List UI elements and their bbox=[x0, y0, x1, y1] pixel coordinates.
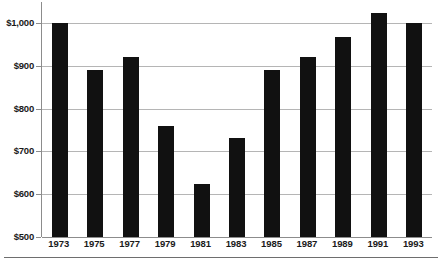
y-tick-label: $500 bbox=[0, 232, 34, 242]
y-tickmark bbox=[36, 151, 41, 152]
y-tickmark bbox=[36, 194, 41, 195]
x-tick-label: 1979 bbox=[155, 239, 176, 249]
y-tickmark bbox=[36, 66, 41, 67]
x-tick-label: 1981 bbox=[190, 239, 211, 249]
x-tick-label: 1973 bbox=[48, 239, 69, 249]
y-axis-tickmarks bbox=[41, 2, 431, 237]
x-tick-label: 1989 bbox=[332, 239, 353, 249]
bar-chart: $500$600$700$800$900$1,000 1973197519771… bbox=[0, 0, 442, 265]
y-axis: $500$600$700$800$900$1,000 bbox=[0, 0, 34, 265]
x-axis: 1973197519771979198119831985198719891991… bbox=[41, 239, 431, 255]
y-tickmark bbox=[36, 109, 41, 110]
x-tick-label: 1993 bbox=[403, 239, 424, 249]
x-tick-label: 1985 bbox=[261, 239, 282, 249]
x-tick-label: 1991 bbox=[367, 239, 388, 249]
y-tickmark bbox=[36, 23, 41, 24]
y-tick-label: $700 bbox=[0, 146, 34, 156]
x-tick-label: 1983 bbox=[226, 239, 247, 249]
y-tick-label: $1,000 bbox=[0, 19, 34, 29]
y-tick-label: $600 bbox=[0, 189, 34, 199]
x-tick-label: 1987 bbox=[297, 239, 318, 249]
y-tickmark bbox=[36, 237, 41, 238]
x-tick-label: 1975 bbox=[84, 239, 105, 249]
x-tick-label: 1977 bbox=[119, 239, 140, 249]
y-tick-label: $800 bbox=[0, 104, 34, 114]
bottom-divider bbox=[4, 257, 438, 258]
y-tick-label: $900 bbox=[0, 61, 34, 71]
